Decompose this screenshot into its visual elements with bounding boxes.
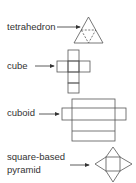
tetrahedron-net: [74, 17, 103, 43]
cube-net: [57, 50, 90, 93]
arrow-icon: [35, 27, 89, 165]
nets-diagram: [0, 0, 136, 183]
pyramid-net: [95, 147, 132, 182]
cuboid-net: [62, 99, 126, 141]
